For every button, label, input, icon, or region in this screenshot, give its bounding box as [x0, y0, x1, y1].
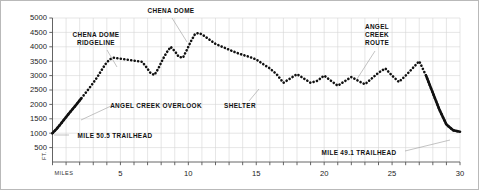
annotation-line: CHENA DOME [36, 31, 156, 39]
y-axis-tick-label: 3500 [1, 57, 47, 66]
annotation-line: CREEK [317, 31, 437, 39]
annotation-line: RIDGELINE [36, 39, 156, 47]
x-axis-name: MILES [55, 170, 74, 176]
x-axis-tick-label: 5 [100, 169, 140, 178]
annotation-line: ANGEL [317, 23, 437, 31]
y-axis-name: FT. [41, 151, 47, 160]
x-axis-tick-label: 15 [236, 169, 276, 178]
x-axis-tick-label: 10 [168, 169, 208, 178]
x-axis-tick-label: 25 [372, 169, 412, 178]
x-axis-tick-label: 30 [440, 169, 479, 178]
y-axis-tick-label: 5000 [1, 13, 47, 22]
leader-line-chena-dome [172, 18, 187, 42]
annotation-line: SHELTER [180, 102, 300, 110]
annotation-angel-creek-route: ANGELCREEKROUTE [317, 23, 437, 48]
annotation-line: CHENA DOME [111, 7, 231, 15]
leader-line-angel-creek-route [357, 51, 375, 79]
annotation-shelter: SHELTER [180, 102, 300, 110]
y-axis-tick-label: 4500 [1, 28, 47, 37]
leader-line-shelter [249, 89, 259, 101]
y-axis-tick-label: 1500 [1, 114, 47, 123]
y-axis-tick-label: 1000 [1, 129, 47, 138]
elevation-segment-final-descent [426, 76, 460, 132]
elevation-profile-figure: CHENA DOMECHENA DOMERIDGELINEANGELCREEKR… [0, 0, 479, 190]
annotation-chena-dome: CHENA DOME [111, 7, 231, 15]
annotation-line: MILE 49.1 TRAILHEAD [299, 149, 419, 157]
y-axis-tick-label: 2000 [1, 100, 47, 109]
leader-line-chena-dome-ridgeline [107, 50, 117, 67]
annotation-line: ROUTE [317, 39, 437, 47]
x-axis-tick-label: 20 [304, 169, 344, 178]
annotation-line: MILE 50.5 TRAILHEAD [55, 132, 175, 140]
y-axis-tick-label: 3000 [1, 71, 47, 80]
annotation-mile-49-1-trailhead: MILE 49.1 TRAILHEAD [299, 149, 419, 157]
y-axis-tick-label: 2500 [1, 85, 47, 94]
annotation-chena-dome-ridgeline: CHENA DOMERIDGELINE [36, 31, 156, 47]
annotation-mile-50-5-trailhead: MILE 50.5 TRAILHEAD [55, 132, 175, 140]
elevation-segment-initial-climb [53, 99, 82, 134]
y-axis-tick-label: 4000 [1, 42, 47, 51]
